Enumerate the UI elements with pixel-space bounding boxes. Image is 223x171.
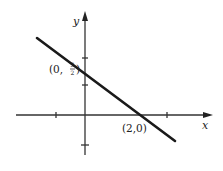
y-intercept-label-open: (0,	[49, 63, 63, 75]
y-intercept-frac-den: 2	[71, 69, 75, 76]
y-intercept-label-close: )	[76, 63, 80, 75]
plotted-line	[37, 38, 175, 141]
y-axis: y	[72, 11, 89, 155]
x-axis-arrow-icon	[203, 112, 213, 118]
x-axis: x	[16, 112, 213, 132]
y-intercept-frac-num: 3	[71, 61, 75, 68]
graph-canvas: x y (0, 3 2 ) (2,0)	[0, 0, 223, 171]
y-intercept-label: (0, 3 2 )	[49, 61, 80, 76]
y-axis-label: y	[72, 15, 80, 28]
x-intercept-label: (2,0)	[122, 122, 147, 134]
y-axis-arrow-icon	[82, 11, 88, 21]
x-axis-label: x	[202, 119, 209, 132]
